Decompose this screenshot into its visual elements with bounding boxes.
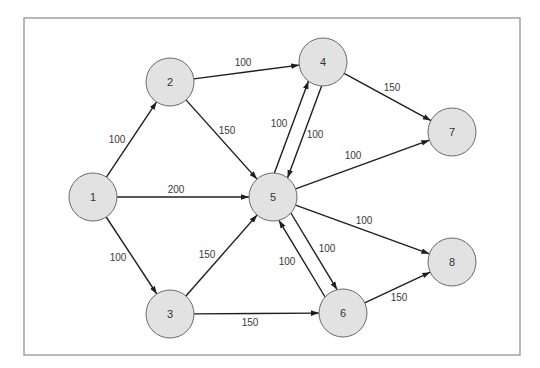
node-label: 6 xyxy=(340,307,346,319)
edge-weight-label: 150 xyxy=(199,249,216,260)
node-3: 3 xyxy=(146,290,194,338)
edge-weight-label: 150 xyxy=(391,292,408,303)
node-label: 1 xyxy=(90,191,96,203)
node-5: 5 xyxy=(249,173,297,221)
node-label: 3 xyxy=(167,308,173,320)
edge-weight-label: 100 xyxy=(279,256,296,267)
edge-weight-label: 200 xyxy=(168,184,185,195)
edge-weight-label: 150 xyxy=(242,317,259,328)
node-1: 1 xyxy=(69,173,117,221)
edge-weight-label: 150 xyxy=(384,82,401,93)
node-6: 6 xyxy=(319,289,367,337)
node-label: 7 xyxy=(449,126,455,138)
node-8: 8 xyxy=(428,238,476,286)
node-label: 4 xyxy=(320,56,326,68)
edge-weight-label: 100 xyxy=(110,252,127,263)
edge-weight-label: 100 xyxy=(271,118,288,129)
node-label: 5 xyxy=(270,191,276,203)
node-label: 8 xyxy=(449,256,455,268)
node-label: 2 xyxy=(167,76,173,88)
node-4: 4 xyxy=(299,38,347,86)
network-diagram: 1002001001001501501501001001501001001001… xyxy=(0,0,540,368)
edge-weight-label: 150 xyxy=(219,125,236,136)
node-2: 2 xyxy=(146,58,194,106)
edge-weight-label: 100 xyxy=(356,215,373,226)
node-7: 7 xyxy=(428,108,476,156)
edge-weight-label: 100 xyxy=(319,243,336,254)
edge-weight-label: 100 xyxy=(345,150,362,161)
edge-weight-label: 100 xyxy=(235,57,252,68)
edge-weight-label: 100 xyxy=(109,134,126,145)
edge-weight-label: 100 xyxy=(307,129,324,140)
edge-3-to-6-arrow xyxy=(194,313,319,314)
